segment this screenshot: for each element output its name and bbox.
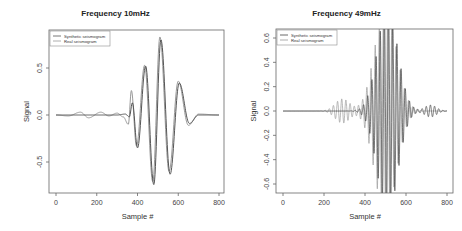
series-line (56, 37, 219, 182)
x-tick-label: 200 (318, 199, 330, 206)
chart-panel-10mhz: Frequency 10mHz 0200400600800-0.50.00.5S… (0, 0, 231, 231)
legend-label: Real seismogram (291, 38, 324, 43)
plot-49mhz: 0200400600800-0.6-0.4-0.20.00.20.40.6Sam… (231, 0, 462, 231)
y-tick-label: -0.2 (263, 129, 270, 141)
series-group (56, 37, 219, 185)
x-tick-label: 600 (172, 199, 184, 206)
y-tick-label: 0.0 (36, 110, 43, 120)
x-tick-label: 0 (281, 199, 285, 206)
y-tick-label: -0.6 (263, 178, 270, 190)
y-tick-label: 0.5 (36, 63, 43, 73)
y-tick-label: 0.4 (263, 57, 270, 67)
x-tick-label: 400 (132, 199, 144, 206)
legend: Synthetic seismogramReal seismogram (50, 31, 110, 46)
x-tick-label: 400 (359, 199, 371, 206)
x-axis-label: Sample # (349, 212, 382, 221)
x-tick-label: 0 (54, 199, 58, 206)
y-tick-label: 0.6 (263, 33, 270, 43)
x-tick-label: 800 (441, 199, 453, 206)
chart-panel-49mhz: Frequency 49mHz 0200400600800-0.6-0.4-0.… (231, 0, 462, 231)
x-tick-label: 800 (213, 199, 225, 206)
y-tick-label: -0.4 (263, 154, 270, 166)
y-axis-label: Signal (249, 100, 258, 121)
plot-10mhz: 0200400600800-0.50.00.5Sample #SignalSyn… (0, 0, 231, 231)
y-tick-label: -0.5 (36, 156, 43, 168)
y-axis-label: Signal (22, 101, 31, 122)
x-tick-label: 200 (91, 199, 103, 206)
legend: Synthetic seismogramReal seismogram (277, 30, 337, 45)
plot-frame (49, 30, 224, 193)
x-axis-label: Sample # (122, 212, 155, 221)
x-tick-label: 600 (400, 199, 412, 206)
y-tick-label: 0.2 (263, 82, 270, 92)
legend-label: Real seismogram (64, 39, 97, 44)
y-tick-label: 0.0 (263, 106, 270, 116)
